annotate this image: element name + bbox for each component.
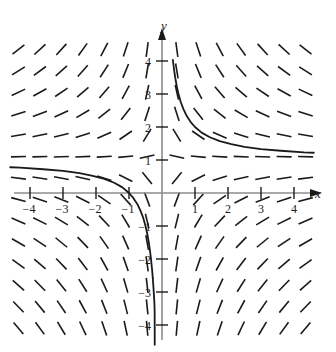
slope-segment (175, 214, 179, 229)
slope-segment (98, 109, 110, 118)
y-tick-label: −4 (138, 319, 151, 333)
slope-segment (11, 134, 26, 137)
slope-segment (278, 259, 289, 269)
slope-segment (14, 323, 24, 334)
slope-segment (55, 88, 67, 96)
slope-segment (300, 45, 312, 54)
slope-segment (99, 87, 109, 98)
slope-segment (194, 108, 203, 120)
slope-segment (236, 65, 246, 76)
slope-segment (13, 301, 23, 312)
slope-segment (176, 235, 179, 250)
slope-segment (79, 279, 87, 292)
slope-segment (176, 42, 178, 57)
slope-segment (76, 110, 89, 118)
slope-segment (298, 177, 313, 179)
slope-segment (195, 64, 201, 78)
slope-segment (299, 67, 312, 75)
slope-segment (234, 156, 249, 157)
slope-segment (235, 110, 248, 118)
slope-segment (176, 321, 177, 336)
plot-canvas: −4−3−2−112344321−1−2−3−4xy (0, 0, 336, 352)
y-tick-label: 1 (145, 154, 151, 168)
slope-segment (79, 300, 86, 313)
slope-segment (120, 131, 132, 139)
slope-segment (33, 89, 46, 96)
slope-segment (11, 112, 25, 117)
slope-segment (123, 257, 128, 271)
slope-segment (34, 238, 46, 246)
slope-segment (32, 177, 47, 179)
slope-segment (237, 43, 246, 55)
slope-segment (123, 42, 128, 56)
slope-segment (279, 280, 289, 291)
x-axis-label: x (314, 186, 321, 201)
slope-segment (123, 236, 129, 250)
y-axis-label: y (159, 18, 167, 33)
slope-segment (279, 44, 290, 54)
slope-segment (174, 193, 179, 207)
slope-segment (255, 156, 270, 157)
x-tick-label: 2 (225, 202, 231, 216)
axes-group (14, 28, 322, 340)
slope-segment (196, 257, 201, 271)
y-tick-label: −2 (138, 253, 151, 267)
slope-segment (54, 133, 69, 137)
slope-segment (55, 217, 68, 225)
slope-segment (75, 156, 90, 157)
slope-segment (175, 107, 180, 121)
slope-segment (277, 218, 290, 225)
slope-segment (236, 87, 247, 97)
slope-segment (54, 156, 69, 157)
slope-segment (278, 66, 290, 75)
slope-segment (234, 176, 249, 179)
slope-segment (77, 216, 89, 225)
slope-segment (234, 196, 247, 203)
slope-segment (237, 258, 246, 270)
slope-segment (56, 238, 68, 248)
slope-segment (277, 177, 292, 179)
slope-segment (255, 177, 270, 180)
slope-segment (257, 66, 268, 76)
slope-segment (215, 236, 224, 248)
slope-segment (298, 134, 313, 137)
slope-segment (142, 172, 152, 184)
slope-segment (195, 86, 202, 99)
slope-segment (197, 300, 201, 315)
slope-segment (34, 259, 45, 269)
slope-segment (278, 238, 290, 246)
slope-segment (36, 322, 45, 334)
slope-field-figure: −4−3−2−112344321−1−2−3−4xy (0, 0, 336, 352)
slope-segment (259, 322, 267, 335)
slope-segment (78, 237, 88, 248)
slope-segment (122, 215, 130, 228)
slope-segment (99, 216, 109, 227)
slope-segment (12, 239, 25, 246)
slope-segment (100, 65, 108, 78)
slope-segment (145, 193, 150, 207)
slope-segment (236, 237, 246, 248)
slope-segment (298, 198, 312, 202)
slope-segment (101, 43, 108, 56)
slope-segment (256, 111, 270, 117)
slope-segment (277, 134, 292, 137)
slope-segment (298, 112, 312, 117)
slope-segment (212, 156, 227, 157)
slope-segment (300, 280, 311, 290)
slope-segment (97, 156, 112, 157)
slope-segment (217, 321, 222, 335)
slope-segment (214, 109, 226, 118)
slope-segment (57, 301, 65, 313)
slope-segment (255, 133, 270, 137)
slope-segment (213, 132, 227, 138)
slope-segment (35, 280, 45, 291)
slope-segment (170, 155, 185, 158)
x-tick-label: 3 (258, 202, 264, 216)
x-tick-label: 4 (291, 202, 297, 216)
slope-segment (277, 197, 291, 202)
slope-segment (217, 300, 222, 314)
x-tick-label: −1 (122, 202, 135, 216)
slope-segment (124, 321, 127, 336)
slope-segment (75, 176, 90, 179)
slope-segment (97, 132, 111, 138)
